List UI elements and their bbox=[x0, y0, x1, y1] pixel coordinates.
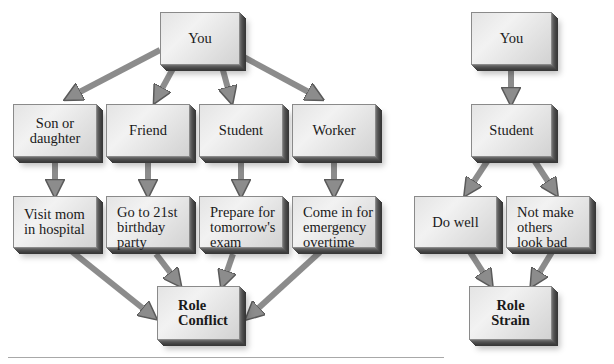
arrow-visit-to-conflict bbox=[70, 250, 150, 314]
expectation-label: Do well bbox=[432, 215, 478, 230]
role-friend-box: Friend bbox=[106, 104, 190, 157]
role-son-or-daughter-box: Son or daughter bbox=[13, 104, 97, 157]
expectation-label: Visit mom in hospital bbox=[24, 207, 85, 237]
you-box-conflict: You bbox=[160, 12, 240, 65]
arrow-you-to-son bbox=[72, 50, 160, 96]
role-conflict-label: Role Conflict bbox=[178, 298, 228, 328]
arrow-notmake-to-strain bbox=[535, 252, 552, 280]
role-label: Student bbox=[219, 123, 263, 138]
expectation-exam-box: Prepare for tomorrow's exam bbox=[199, 196, 283, 248]
expectation-label: Go to 21st birthday party bbox=[117, 205, 177, 250]
expectation-visit-mom-box: Visit mom in hospital bbox=[13, 196, 97, 248]
role-label: Student bbox=[489, 123, 533, 138]
arrow-you-to-worker bbox=[240, 55, 316, 96]
role-student-box: Student bbox=[199, 104, 283, 157]
expectation-not-make-others-look-bad-box: Not make others look bad bbox=[506, 196, 590, 248]
expectation-label: Not make others look bad bbox=[517, 205, 574, 250]
arrow-party-to-conflict bbox=[156, 254, 176, 280]
role-strain-label: Role Strain bbox=[491, 298, 530, 328]
you-label: You bbox=[500, 31, 524, 46]
arrow-overtime-to-conflict bbox=[252, 252, 320, 314]
role-label: Son or daughter bbox=[30, 116, 81, 146]
arrow-you-to-friend bbox=[158, 63, 176, 96]
arrow-exam-to-conflict bbox=[224, 254, 233, 280]
expectation-birthday-party-box: Go to 21st birthday party bbox=[106, 196, 190, 248]
expectation-do-well-box: Do well bbox=[414, 196, 497, 248]
role-label: Friend bbox=[129, 123, 167, 138]
expectation-label: Prepare for tomorrow's exam bbox=[210, 205, 275, 250]
role-conflict-box: Role Conflict bbox=[157, 286, 240, 340]
role-strain-box: Role Strain bbox=[469, 286, 552, 340]
arrow-student-to-notmake bbox=[534, 160, 553, 189]
arrow-dowell-to-strain bbox=[470, 252, 488, 280]
expectation-overtime-box: Come in for emergency overtime bbox=[292, 196, 376, 248]
you-box-strain: You bbox=[471, 12, 552, 65]
role-worker-box: Worker bbox=[292, 104, 376, 157]
arrow-you-to-student bbox=[221, 63, 230, 96]
you-label: You bbox=[188, 31, 212, 46]
arrow-student-to-dowell bbox=[469, 160, 488, 189]
role-label: Worker bbox=[312, 123, 355, 138]
role-student-box-strain: Student bbox=[471, 104, 552, 157]
expectation-label: Come in for emergency overtime bbox=[303, 205, 373, 250]
